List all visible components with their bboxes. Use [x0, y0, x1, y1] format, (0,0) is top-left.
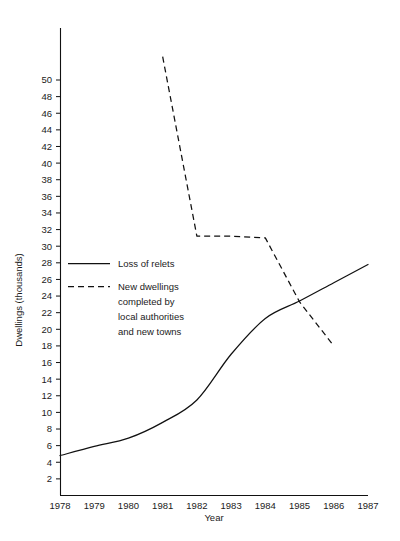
y-tick-label: 28 — [41, 257, 52, 268]
y-tick-label: 36 — [41, 191, 52, 202]
y-tick-label: 44 — [41, 124, 52, 135]
chart-figure: 2468101214161820222426283032343638404244… — [0, 0, 400, 541]
y-tick-label: 46 — [41, 108, 52, 119]
legend-label: Loss of relets — [118, 258, 175, 269]
x-tick-label: 1981 — [152, 500, 173, 511]
y-tick-label: 4 — [47, 457, 52, 468]
y-tick-label: 16 — [41, 357, 52, 368]
y-tick-label: 30 — [41, 241, 52, 252]
y-tick-label: 22 — [41, 307, 52, 318]
y-tick-label: 38 — [41, 174, 52, 185]
y-tick-label: 42 — [41, 141, 52, 152]
y-axis-title: Dwellings (thousands) — [13, 253, 24, 346]
x-tick-label: 1987 — [357, 500, 378, 511]
legend-label: local authorities — [118, 311, 184, 322]
y-tick-label: 12 — [41, 390, 52, 401]
y-tick-label: 6 — [47, 440, 52, 451]
x-axis-title: Year — [204, 512, 223, 523]
x-tick-label: 1978 — [49, 500, 70, 511]
y-tick-label: 40 — [41, 158, 52, 169]
x-tick-label: 1986 — [323, 500, 344, 511]
y-tick-label: 32 — [41, 224, 52, 235]
legend-label: New dwellings — [118, 281, 179, 292]
y-tick-label: 34 — [41, 207, 52, 218]
x-tick-label: 1980 — [118, 500, 139, 511]
y-tick-label: 20 — [41, 324, 52, 335]
y-tick-label: 26 — [41, 274, 52, 285]
x-tick-label: 1979 — [84, 500, 105, 511]
x-tick-label: 1983 — [221, 500, 242, 511]
y-tick-label: 2 — [47, 473, 52, 484]
y-tick-label: 18 — [41, 340, 52, 351]
y-tick-label: 8 — [47, 423, 52, 434]
y-tick-label: 14 — [41, 374, 52, 385]
legend-label: and new towns — [118, 326, 182, 337]
y-tick-label: 48 — [41, 91, 52, 102]
line-chart-canvas: 2468101214161820222426283032343638404244… — [0, 0, 400, 541]
legend-label: completed by — [118, 296, 175, 307]
x-tick-label: 1984 — [255, 500, 276, 511]
y-tick-label: 10 — [41, 407, 52, 418]
x-tick-label: 1982 — [186, 500, 207, 511]
y-tick-label: 50 — [41, 74, 52, 85]
y-tick-label: 24 — [41, 290, 52, 301]
x-tick-label: 1985 — [289, 500, 310, 511]
